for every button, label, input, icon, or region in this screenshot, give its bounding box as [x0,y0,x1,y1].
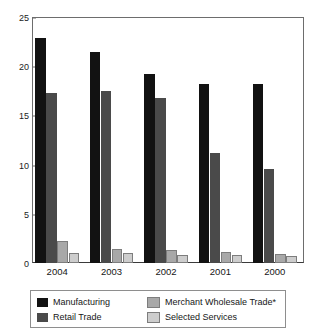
bar [232,255,243,263]
bar [275,254,286,263]
bar [210,153,221,263]
y-tick-label: 10 [19,161,33,171]
bar [177,255,188,263]
plot-area: 0510152025 20042003200220012000 [0,0,318,272]
bar-group [90,17,134,263]
legend-label: Merchant Wholesale Trade* [165,297,276,307]
x-tick-label: 2002 [155,266,176,277]
legend-item[interactable]: Merchant Wholesale Trade* [147,295,276,309]
x-tick-label: 2000 [264,266,285,277]
bar-group [199,17,243,263]
y-tick-label: 15 [19,111,33,121]
x-tick-label: 2003 [101,266,122,277]
bar-group [35,17,79,263]
legend-item[interactable]: Retail Trade [37,310,102,324]
x-axis-labels: 20042003200220012000 [32,266,304,284]
bar [123,253,134,263]
bar [57,241,68,263]
bar [35,38,46,263]
bar [264,169,275,263]
legend-item[interactable]: Manufacturing [37,295,110,309]
legend-swatch-icon [37,313,48,322]
bar [155,98,166,263]
x-tick-label: 2004 [47,266,68,277]
bar [112,249,123,263]
legend-swatch-icon [147,297,160,308]
bars-layer [32,17,304,263]
legend: ManufacturingRetail TradeMerchant Wholes… [30,290,286,328]
bar [166,250,177,263]
bar [199,84,210,263]
legend-item[interactable]: Selected Services [147,310,237,324]
bar [286,256,297,263]
bar [69,253,80,263]
legend-label: Retail Trade [53,312,102,322]
legend-items: ManufacturingRetail TradeMerchant Wholes… [37,295,281,325]
x-tick-label: 2001 [210,266,231,277]
legend-swatch-icon [147,312,160,323]
bar-group [253,17,297,263]
bar [90,52,101,263]
bar [101,91,112,263]
bar-group [144,17,188,263]
bar [253,84,264,263]
legend-label: Selected Services [165,312,237,322]
legend-swatch-icon [37,298,48,307]
bar [46,93,57,263]
bar [221,252,232,263]
y-tick-label: 20 [19,62,33,72]
legend-label: Manufacturing [53,297,110,307]
bar [144,74,155,263]
y-tick-label: 25 [19,13,33,23]
bar-chart: 0510152025 20042003200220012000 Manufact… [0,0,318,335]
